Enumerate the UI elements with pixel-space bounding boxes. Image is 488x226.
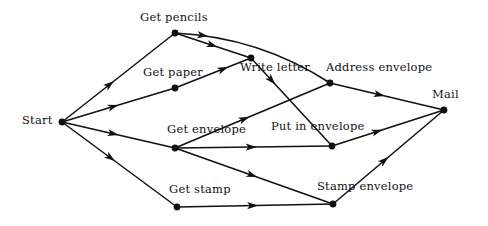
node-label-stamp-envelope: Stamp envelope: [317, 181, 413, 193]
arrowhead-start-get-envelope: [107, 129, 119, 138]
node-dot-mail: [441, 107, 448, 114]
node-label-get-envelope: Get envelope: [167, 124, 246, 136]
node-dot-get-paper: [172, 85, 179, 92]
node-label-get-pencils: Get pencils: [140, 12, 208, 24]
arrowhead-start-get-paper: [107, 102, 120, 112]
activity-network-diagram: StartGet pencilsGet paperWrite letterAdd…: [0, 0, 488, 226]
arrowhead-put-in-envelope-mail: [371, 126, 384, 136]
node-label-start: Start: [22, 115, 52, 127]
edge-address-envelope-mail: [330, 83, 444, 110]
node-label-mail: Mail: [432, 89, 459, 101]
arrowhead-get-pencils-write-letter: [206, 40, 219, 50]
node-label-get-stamp: Get stamp: [169, 184, 231, 196]
graph-canvas: [0, 0, 488, 226]
node-dot-stamp-envelope: [330, 201, 337, 208]
node-dot-get-envelope: [172, 145, 179, 152]
node-label-address-envelope: Address envelope: [326, 62, 432, 74]
node-dot-address-envelope: [327, 80, 334, 87]
arrowhead-get-paper-write-letter: [217, 64, 230, 75]
node-label-put-in-envelope: Put in envelope: [271, 121, 364, 133]
node-dot-get-pencils: [172, 30, 179, 37]
node-label-write-letter: Write letter: [240, 62, 310, 74]
node-label-get-paper: Get paper: [143, 67, 203, 79]
edge-get-envelope-address-envelope: [175, 83, 330, 148]
node-dot-put-in-envelope: [329, 143, 336, 150]
arrowhead-get-envelope-stamp-envelope: [246, 170, 259, 180]
node-dot-get-stamp: [174, 204, 181, 211]
arrowhead-address-envelope-mail: [373, 90, 385, 100]
node-dot-start: [59, 119, 66, 126]
